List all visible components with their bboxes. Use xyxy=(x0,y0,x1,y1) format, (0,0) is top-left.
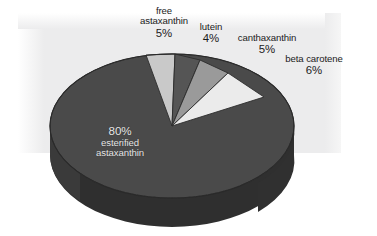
label-lutein-line1: lutein xyxy=(190,22,232,32)
label-esterified-astaxanthin: 80% esterified astaxanthin xyxy=(64,125,176,158)
label-esterified-astaxanthin-percent: 80% xyxy=(64,125,176,138)
label-beta-carotene-percent: 6% xyxy=(268,64,360,76)
label-beta-carotene: beta carotene 6% xyxy=(268,54,360,77)
label-esterified-astaxanthin-line2: astaxanthin xyxy=(64,148,176,158)
label-beta-carotene-line1: beta carotene xyxy=(268,54,360,64)
pie-chart-figure: free astaxanthin 5% lutein 4% canthaxant… xyxy=(0,0,377,236)
label-canthaxanthin-line1: canthaxanthin xyxy=(226,33,308,43)
